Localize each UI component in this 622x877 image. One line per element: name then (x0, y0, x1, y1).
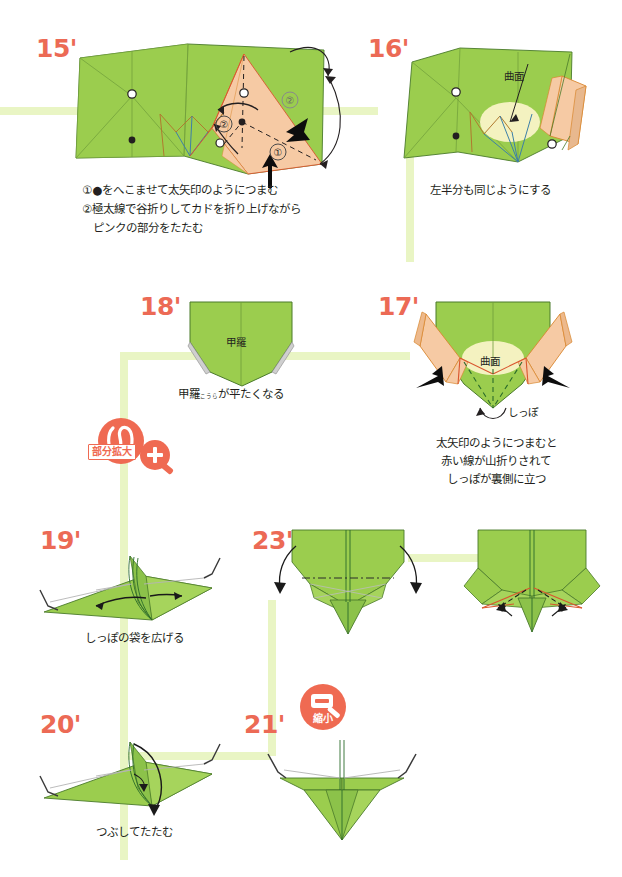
caption-step-17-line-1: 太矢印のようにつまむと (396, 435, 596, 452)
origami-instruction-sheet: 15' (0, 0, 622, 877)
figure-step-23 (452, 528, 612, 643)
carapace-label-18: 甲羅 (226, 334, 246, 349)
svg-text:①: ① (274, 147, 283, 158)
caption-step-18-rest: が平たくなる (218, 387, 284, 401)
figure-step-15: ② ② ① (72, 36, 332, 191)
svg-text:②: ② (220, 119, 229, 130)
caption-step-18-ruby-base: 甲羅 (178, 387, 200, 401)
figure-step-16 (400, 40, 600, 175)
badge-zoom-out[interactable]: 縮小 (300, 684, 356, 734)
figure-step-19 (34, 540, 234, 630)
curved-surface-label-16: 曲面 (504, 68, 524, 83)
badge-zoom-out-label: 縮小 (300, 710, 346, 725)
caption-step-17-line-2: 赤い線が山折りされて (396, 453, 596, 470)
caption-step-19: しっぽの袋を広げる (34, 630, 234, 647)
badge-zoom-in-label: 部分拡大 (88, 444, 136, 460)
magnifier-plus-v (153, 447, 157, 463)
caption-step-16: 左半分も同じようにする (390, 182, 590, 199)
caption-step-20: つぶしてたたむ (34, 824, 234, 841)
curved-surface-label-17: 曲面 (480, 353, 500, 368)
svg-text:②: ② (286, 95, 295, 106)
badge-zoom-in[interactable]: 部分拡大 (90, 418, 190, 482)
caption-step-17-line-3: しっぽが裏側に立つ (396, 471, 596, 488)
magnifier-minus-sign (315, 699, 329, 703)
magnifier-handle (160, 462, 174, 475)
figure-step-22 (268, 528, 428, 643)
caption-step-18-ruby-rt: こうら (200, 393, 218, 399)
caption-step-15-line-2: ②極太線で谷折りしてカドを折り上げながら (82, 201, 301, 218)
figure-step-21 (262, 728, 422, 848)
caption-step-15-line-3: ピンクの部分をたたむ (82, 220, 203, 237)
caption-step-18: 甲羅こうらが平たくなる (178, 386, 284, 403)
step-number-15: 15' (36, 36, 77, 61)
tail-label-17: しっぽ (508, 404, 538, 419)
figure-step-20 (34, 726, 234, 822)
step-number-18: 18' (140, 294, 181, 319)
caption-step-15-line-1: ①●をへこませて太矢印のようにつまむ (82, 182, 278, 199)
